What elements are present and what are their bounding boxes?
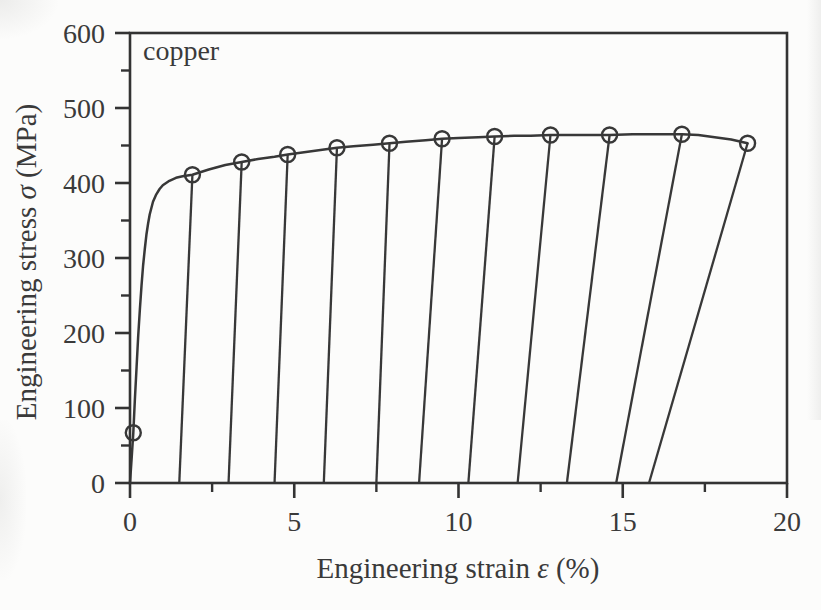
y-tick-label: 0 bbox=[91, 468, 105, 499]
data-series bbox=[126, 127, 755, 483]
stress-strain-figure: 010020030040050060005101520 copper Engin… bbox=[0, 0, 821, 610]
y-tick-label: 500 bbox=[63, 93, 105, 124]
x-tick-label: 20 bbox=[773, 506, 801, 537]
unloading-line bbox=[518, 135, 551, 483]
unloading-line bbox=[419, 139, 442, 483]
y-axis-title: Engineering stress σ (MPa) bbox=[10, 104, 43, 420]
unloading-line bbox=[567, 135, 610, 483]
axis-ticks bbox=[115, 33, 787, 498]
epsilon-symbol: ε bbox=[537, 552, 549, 584]
unloading-line bbox=[468, 137, 494, 484]
unloading-line bbox=[229, 162, 242, 483]
unloading-line bbox=[616, 134, 682, 483]
unloading-line bbox=[275, 155, 288, 484]
y-tick-label: 100 bbox=[63, 393, 105, 424]
y-tick-label: 600 bbox=[63, 18, 105, 49]
y-tick-label: 400 bbox=[63, 168, 105, 199]
unloading-line bbox=[649, 143, 748, 483]
x-axis-title: Engineering strain ε (%) bbox=[317, 552, 600, 585]
x-tick-label: 10 bbox=[445, 506, 473, 537]
x-tick-label: 15 bbox=[609, 506, 637, 537]
y-tick-label: 200 bbox=[63, 318, 105, 349]
x-axis-title-unit: (%) bbox=[549, 552, 600, 585]
y-axis-title-text: Engineering stress bbox=[10, 200, 42, 421]
x-tick-label: 5 bbox=[287, 506, 301, 537]
x-tick-label: 0 bbox=[123, 506, 137, 537]
unloading-line bbox=[324, 148, 337, 483]
unloading-line bbox=[376, 143, 389, 483]
plot-border bbox=[130, 33, 787, 483]
unloading-line bbox=[179, 175, 192, 483]
y-tick-label: 300 bbox=[63, 243, 105, 274]
material-label: copper bbox=[143, 35, 220, 66]
x-axis-title-text: Engineering strain bbox=[317, 552, 538, 584]
y-axis-title-unit: (MPa) bbox=[10, 104, 43, 185]
stress-strain-chart: 010020030040050060005101520 copper Engin… bbox=[0, 0, 821, 610]
